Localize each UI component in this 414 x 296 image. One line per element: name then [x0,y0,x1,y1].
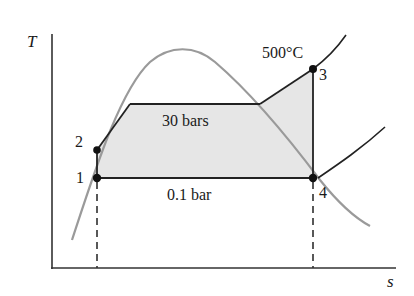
high-pressure-isobar-superheat [313,35,346,69]
low-pressure-label: 0.1 bar [167,187,211,203]
point-1-marker [93,174,101,182]
x-axis-label: s [387,273,394,290]
point-2-label: 2 [75,134,83,150]
point-2-marker [93,146,101,154]
max-temperature-label: 500°C [262,45,303,61]
point-4-label: 4 [319,185,327,201]
point-3-label: 3 [319,67,327,83]
point-4-marker [309,174,317,182]
point-3-marker [309,65,317,73]
high-pressure-label: 30 bars [162,113,209,129]
ts-diagram [0,0,414,296]
point-1-label: 1 [76,170,84,186]
low-pressure-isobar-superheat [318,127,385,178]
y-axis-label: T [27,33,36,50]
